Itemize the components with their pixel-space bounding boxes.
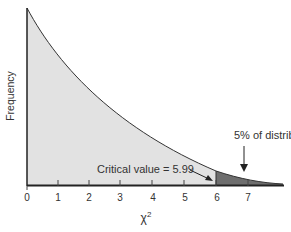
x-tick-label: 7	[245, 192, 251, 203]
y-axis-label: Frequency	[4, 70, 16, 120]
x-tick-label: 1	[55, 192, 61, 203]
x-tick-label: 0	[24, 192, 30, 203]
acceptance-region	[27, 8, 216, 185]
chi-square-chart: 0 1 2 3 4 5 6 7 χ2 Frequency Critical va…	[0, 0, 291, 232]
x-tick-label: 4	[150, 192, 156, 203]
x-tick-label: 2	[86, 192, 92, 203]
tail-label: 5% of distribution	[234, 129, 291, 141]
critical-value-label: Critical value = 5.99	[97, 163, 194, 175]
x-tick-label: 6	[214, 192, 220, 203]
x-tick-label: 5	[182, 192, 188, 203]
x-axis-label: χ2	[141, 210, 152, 225]
x-tick-label: 3	[117, 192, 123, 203]
